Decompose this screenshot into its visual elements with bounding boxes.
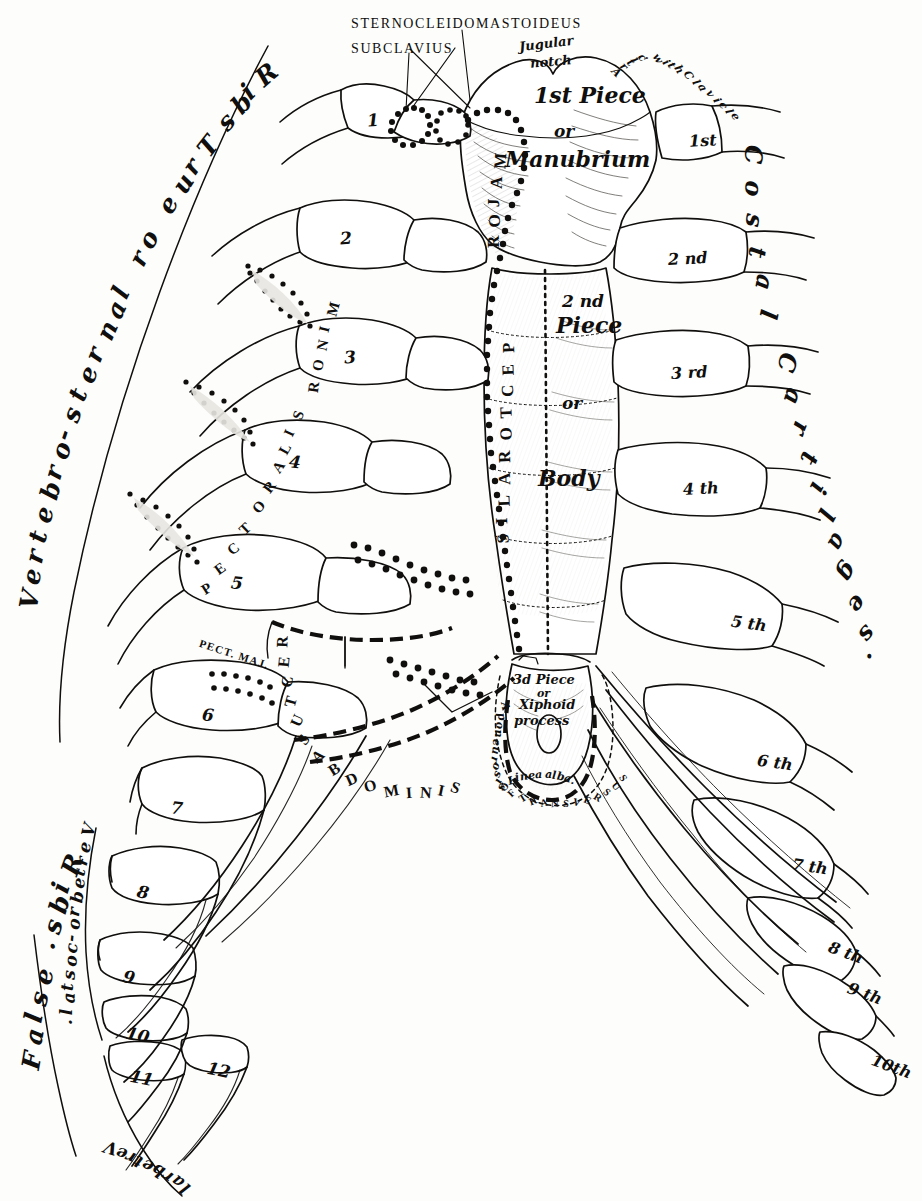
label-or-1: or — [554, 121, 574, 141]
label-third-piece: 3d Piece — [513, 672, 575, 687]
sternum-ribcage-drawing — [0, 0, 922, 1201]
label-xiphoid: Xiphoid — [519, 697, 575, 712]
label-or-2: or — [562, 393, 582, 413]
label-subclavius: SUBCLAVIUS — [351, 41, 453, 57]
label-second-piece-number: 2 nd — [562, 291, 604, 311]
rib-number-7: 7 — [170, 797, 184, 818]
pectoralis-minor-attachment — [127, 263, 312, 564]
label-first-piece: 1st Piece — [534, 82, 646, 108]
cartilage-number-1st: 1st — [689, 130, 717, 150]
rib-number-6: 6 — [201, 704, 215, 725]
rectus-callout-leader — [345, 637, 492, 712]
rib-number-4: 4 — [288, 451, 302, 472]
cartilage-number-2nd: 2 nd — [668, 248, 708, 269]
label-second-piece-word: Piece — [556, 312, 622, 338]
label-manubrium: Manubrium — [505, 146, 650, 172]
label-sternocleidomastoideus: STERNOCLEIDOMASTOIDEUS — [351, 16, 582, 32]
rib-number-1: 1 — [366, 110, 379, 131]
rib-number-3: 3 — [343, 347, 356, 368]
label-body: Body — [538, 465, 599, 491]
label-xiphoid-process: process — [514, 713, 569, 728]
anatomical-figure: STERNOCLEIDOMASTOIDEUS SUBCLAVIUS Jugula… — [0, 0, 922, 1201]
rib-number-2: 2 — [339, 228, 352, 249]
cartilage-number-4th: 4 th — [683, 478, 720, 499]
rib-number-5: 5 — [230, 572, 244, 593]
cartilage-number-3rd: 3 rd — [671, 362, 708, 383]
